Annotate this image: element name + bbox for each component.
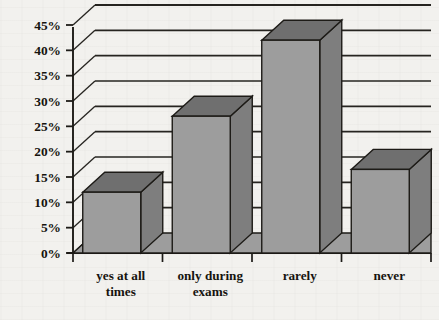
x-category-label: rarely — [283, 268, 318, 283]
bar-front-face — [83, 192, 141, 253]
grid-depth-connector — [73, 157, 95, 177]
x-category-label: times — [106, 284, 136, 299]
x-category-label: never — [374, 268, 406, 283]
bar-side-face — [320, 20, 342, 253]
grid-depth-connector — [73, 5, 95, 25]
y-tick-label: 25% — [34, 119, 61, 134]
bar-column — [83, 172, 163, 253]
chart-canvas: 0%5%10%15%20%25%30%35%40%45% yes at allt… — [0, 0, 439, 320]
bar-column — [262, 20, 342, 253]
bar-front-face — [351, 169, 409, 253]
y-tick-label: 35% — [34, 68, 61, 83]
bar-chart-3d: 0%5%10%15%20%25%30%35%40%45% yes at allt… — [0, 0, 439, 320]
grid-depth-connector — [73, 106, 95, 126]
x-category-labels-group: yes at alltimesonly duringexamsrarelynev… — [96, 268, 405, 299]
bar-front-face — [262, 40, 320, 253]
y-tick-label: 30% — [34, 94, 61, 109]
bar-column — [172, 96, 252, 253]
y-tick-label: 5% — [41, 220, 61, 235]
grid-depth-connector — [73, 30, 95, 50]
bar-side-face — [230, 96, 252, 253]
bar-front-face — [172, 116, 230, 253]
y-tick-label: 10% — [34, 195, 61, 210]
bar-column — [351, 149, 431, 253]
x-category-label: only during — [177, 268, 243, 283]
grid-depth-connector — [73, 132, 95, 152]
y-tick-label: 45% — [34, 18, 61, 33]
grid-depth-connector — [73, 56, 95, 76]
grid-depth-connector — [73, 81, 95, 101]
y-tick-label: 0% — [41, 246, 61, 261]
x-category-label: yes at all — [96, 268, 145, 283]
y-tick-label: 40% — [34, 43, 61, 58]
x-category-label: exams — [193, 284, 228, 299]
y-tick-labels-group: 0%5%10%15%20%25%30%35%40%45% — [34, 18, 61, 261]
y-tick-label: 15% — [34, 170, 61, 185]
y-tick-label: 20% — [34, 144, 61, 159]
